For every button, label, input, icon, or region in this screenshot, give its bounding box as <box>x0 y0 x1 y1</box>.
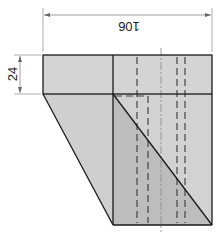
part-body <box>43 48 212 232</box>
width-dimension: 106 <box>43 8 212 52</box>
height-dimension: 24 <box>5 55 41 94</box>
width-dimension-label: 106 <box>118 19 140 34</box>
technical-drawing: 106 24 <box>0 0 221 243</box>
height-dimension-label: 24 <box>5 67 20 81</box>
